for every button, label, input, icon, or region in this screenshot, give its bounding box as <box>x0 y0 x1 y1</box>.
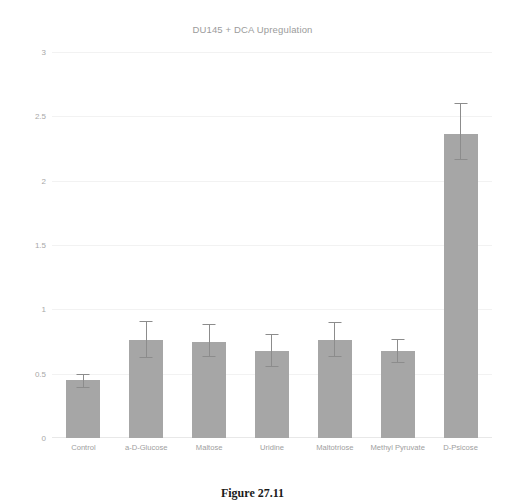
x-axis-tick-label: Methyl Pyruvate <box>366 443 429 454</box>
y-axis-tick-label: 2 <box>20 176 46 185</box>
bar-group[interactable] <box>241 52 304 438</box>
error-bar <box>265 334 278 367</box>
error-bar-cap-bottom <box>203 356 216 357</box>
error-bar-stem <box>83 374 84 388</box>
bar-group[interactable] <box>52 52 115 438</box>
bar-series <box>52 52 492 438</box>
chart-title: DU145 + DCA Upregulation <box>0 24 505 35</box>
y-axis: 00.511.522.53 <box>14 52 46 438</box>
error-bar-cap-top <box>328 322 341 323</box>
error-bar-stem <box>209 324 210 357</box>
error-bar-cap-top <box>203 324 216 325</box>
error-bar-cap-top <box>265 334 278 335</box>
x-axis-tick-label: Maltotriose <box>303 443 366 454</box>
error-bar-cap-bottom <box>77 387 90 388</box>
bar-group[interactable] <box>429 52 492 438</box>
x-axis-tick-label: a-D-Glucose <box>115 443 178 454</box>
y-axis-tick-label: 3 <box>20 48 46 57</box>
error-bar-cap-bottom <box>391 362 404 363</box>
error-bar-cap-top <box>77 374 90 375</box>
x-axis-tick-label: Uridine <box>241 443 304 454</box>
error-bar-cap-bottom <box>140 357 153 358</box>
error-bar-stem <box>146 321 147 358</box>
y-axis-tick-label: 2.5 <box>20 112 46 121</box>
error-bar-stem <box>271 334 272 367</box>
x-axis-tick-label: Maltose <box>178 443 241 454</box>
bar[interactable] <box>381 351 415 438</box>
x-axis-tick-label: Control <box>52 443 115 454</box>
x-axis-tick-label: D-Psicose <box>429 443 492 454</box>
bar-group[interactable] <box>115 52 178 438</box>
error-bar <box>203 324 216 357</box>
error-bar-stem <box>460 103 461 160</box>
y-axis-tick-label: 0 <box>20 434 46 443</box>
x-axis: Controla-D-GlucoseMaltoseUridineMaltotri… <box>52 443 492 475</box>
bar[interactable] <box>444 134 478 438</box>
error-bar <box>391 339 404 363</box>
y-axis-tick-label: 1.5 <box>20 241 46 250</box>
error-bar <box>140 321 153 358</box>
bar-group[interactable] <box>366 52 429 438</box>
bar-group[interactable] <box>303 52 366 438</box>
bar-group[interactable] <box>178 52 241 438</box>
figure-caption: Figure 27.11 <box>0 486 505 501</box>
error-bar-cap-top <box>140 321 153 322</box>
bar[interactable] <box>66 380 100 438</box>
error-bar-cap-top <box>454 103 467 104</box>
error-bar-cap-bottom <box>454 159 467 160</box>
error-bar <box>77 374 90 388</box>
error-bar <box>454 103 467 160</box>
error-bar-cap-bottom <box>328 356 341 357</box>
error-bar-cap-top <box>391 339 404 340</box>
error-bar-stem <box>397 339 398 363</box>
error-bar-cap-bottom <box>265 366 278 367</box>
error-bar <box>328 322 341 357</box>
error-bar-stem <box>334 322 335 357</box>
y-axis-tick-label: 1 <box>20 305 46 314</box>
y-axis-tick-label: 0.5 <box>20 369 46 378</box>
